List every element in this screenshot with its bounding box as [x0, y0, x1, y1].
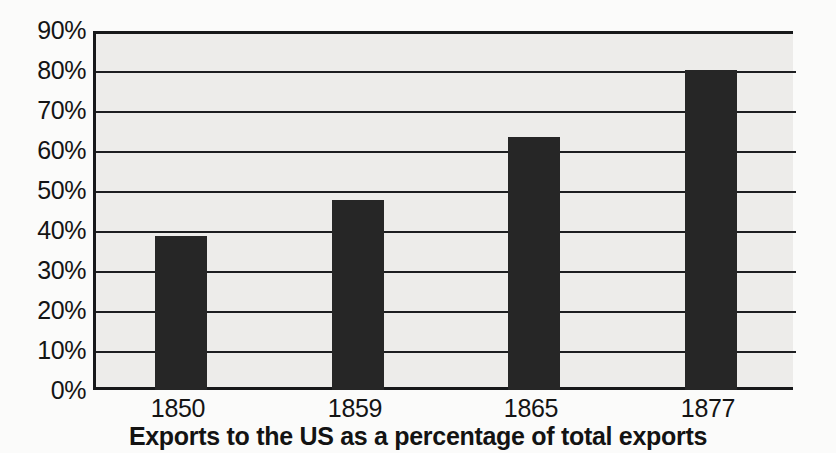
bar-1859	[332, 200, 384, 390]
x-tick-label-1859: 1859	[275, 393, 435, 423]
x-tick-label-1850: 1850	[98, 393, 258, 423]
y-tick-label-60: 60%	[0, 138, 86, 163]
y-tick-label-20: 20%	[0, 298, 86, 323]
y-tick-label-90: 90%	[0, 18, 86, 43]
y-tick-label-10: 10%	[0, 338, 86, 363]
y-tick-label-40: 40%	[0, 218, 86, 243]
bar-1877	[685, 70, 737, 390]
x-tick-label-1865: 1865	[451, 393, 611, 423]
bar-1865	[508, 137, 560, 390]
x-tick-label-1877: 1877	[628, 393, 788, 423]
x-axis: 1850 1859 1865 1877	[93, 393, 793, 425]
bars-layer	[96, 34, 796, 390]
y-tick-label-0: 0%	[0, 378, 86, 403]
chart-caption: Exports to the US as a percentage of tot…	[0, 422, 836, 450]
bar-chart-figure: 90% 80% 70% 60% 50% 40% 30% 20% 10% 0% 1…	[0, 0, 836, 453]
y-tick-label-30: 30%	[0, 258, 86, 283]
y-tick-label-80: 80%	[0, 58, 86, 83]
y-tick-label-70: 70%	[0, 98, 86, 123]
y-axis: 90% 80% 70% 60% 50% 40% 30% 20% 10% 0%	[0, 0, 86, 453]
bar-1850	[155, 236, 207, 390]
plot-area	[93, 31, 793, 390]
y-tick-label-50: 50%	[0, 178, 86, 203]
